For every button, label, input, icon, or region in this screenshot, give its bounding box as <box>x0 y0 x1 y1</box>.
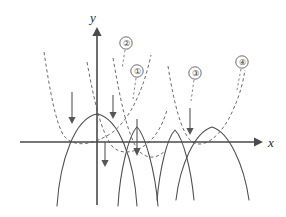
callout-3-label: ③ <box>192 69 199 78</box>
callout-leader-3 <box>191 80 194 101</box>
solid-arch-4 <box>176 127 249 200</box>
transform-arrow-5 <box>186 108 193 135</box>
x-axis-label: x <box>267 135 274 150</box>
solid-curve-group <box>57 114 249 206</box>
callout-2-label: ② <box>123 39 130 48</box>
transform-arrow-1 <box>68 92 75 124</box>
callout-leader-4 <box>237 69 241 90</box>
callout-leader-1 <box>133 78 136 99</box>
callout-3: ③ <box>189 67 201 79</box>
transform-arrow-3 <box>101 142 108 167</box>
callout-leader-2 <box>122 50 125 69</box>
dashed-parabola-4 <box>168 66 245 144</box>
callout-4: ④ <box>236 56 248 68</box>
y-axis-label: y <box>88 10 96 25</box>
callout-2: ② <box>120 37 132 49</box>
figure-root: ① ② ③ ④ y x <box>0 0 286 217</box>
callout-1: ① <box>131 65 143 77</box>
dashed-parabola-2 <box>87 62 167 152</box>
callout-1-label: ① <box>134 67 141 76</box>
solid-arch-3 <box>157 130 194 200</box>
x-axis-arrowhead <box>254 137 263 146</box>
y-axis-arrowhead <box>92 27 101 36</box>
callout-4-label: ④ <box>239 58 246 67</box>
transform-arrow-2 <box>109 95 116 119</box>
parabola-diagram: ① ② ③ ④ y x <box>0 0 286 217</box>
